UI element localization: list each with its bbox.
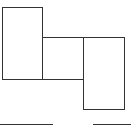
right-tall-box xyxy=(83,37,125,110)
diagram-canvas xyxy=(0,0,131,126)
bottom-left-line xyxy=(0,124,53,125)
bottom-right-line xyxy=(93,124,131,125)
left-tall-box xyxy=(2,7,43,80)
middle-square-box xyxy=(42,37,84,80)
